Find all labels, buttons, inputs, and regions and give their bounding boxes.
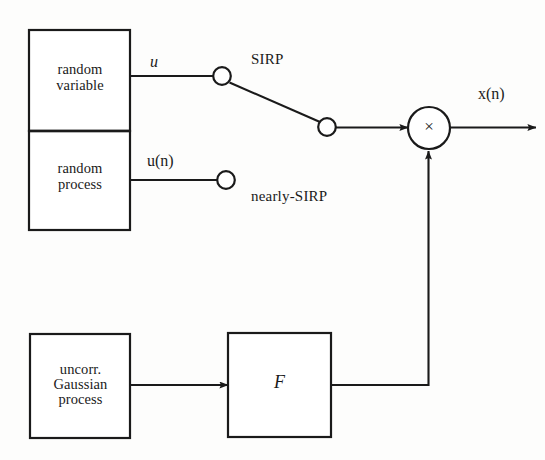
wire-switch-arm — [230, 83, 321, 123]
filter-symbol-label: F — [228, 375, 331, 391]
output-xn-label: x(n) — [478, 85, 505, 103]
nearly-sirp-label: nearly-SIRP — [251, 188, 327, 205]
wire-filter-feedback — [331, 151, 429, 385]
uncorr-gaussian-label: uncorr. Gaussian process — [31, 362, 130, 407]
multiplier-symbol-label: × — [409, 117, 449, 137]
sirp-label: SIRP — [251, 51, 284, 68]
contact-nearly-sirp-node[interactable] — [217, 171, 235, 189]
contact-sirp-node[interactable] — [213, 67, 231, 85]
random-process-label: random process — [30, 161, 130, 192]
signal-u-label: u — [150, 53, 158, 71]
block-diagram-figure: random variable random process uncorr. G… — [0, 0, 545, 460]
contact-switch-pole-node[interactable] — [318, 118, 336, 136]
random-variable-label: random variable — [30, 62, 130, 93]
signal-un-label: u(n) — [147, 152, 174, 170]
